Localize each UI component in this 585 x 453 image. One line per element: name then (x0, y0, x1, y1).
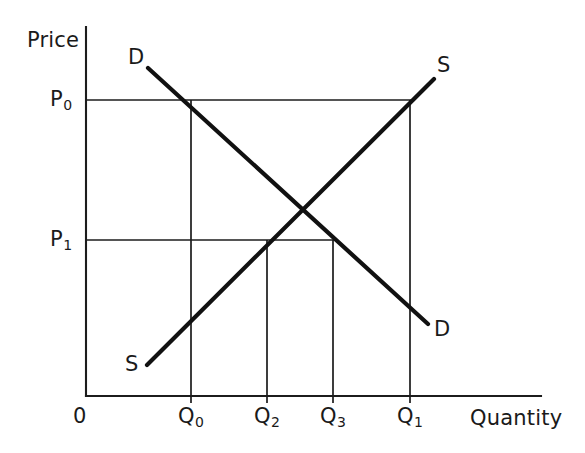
supply-curve-label-bottom: S (125, 354, 138, 375)
demand-curve-label-bottom: D (434, 319, 450, 340)
quantity-tick-q1-base: Q (397, 404, 414, 428)
price-tick-p1-base: P (50, 227, 63, 251)
price-tick-p1: P1 (50, 229, 72, 250)
price-tick-p0-base: P (50, 87, 63, 111)
price-tick-p1-subscript: 1 (63, 237, 72, 253)
quantity-tick-q1: Q1 (397, 406, 422, 427)
supply-curve (147, 79, 434, 365)
y-axis-label: Price (27, 30, 79, 51)
quantity-tick-q1-subscript: 1 (414, 414, 423, 430)
origin-label: 0 (73, 406, 86, 427)
demand-curve (148, 68, 428, 324)
price-tick-p0-subscript: 0 (63, 97, 72, 113)
quantity-tick-q3-subscript: 3 (337, 414, 346, 430)
quantity-tick-q0-base: Q (178, 404, 195, 428)
diagram-canvas (0, 0, 585, 453)
supply-demand-figure: Price Quantity 0 P0 P1 Q0 Q2 Q3 Q1 D D S… (0, 0, 585, 453)
quantity-tick-q2-base: Q (254, 404, 271, 428)
quantity-tick-q0-subscript: 0 (195, 414, 204, 430)
quantity-tick-q0: Q0 (178, 406, 203, 427)
demand-curve-label-top: D (128, 47, 144, 68)
quantity-tick-q2-subscript: 2 (271, 414, 280, 430)
quantity-tick-q2: Q2 (254, 406, 279, 427)
supply-curve-label-top: S (437, 55, 450, 76)
x-axis-label: Quantity (470, 408, 562, 429)
price-tick-p0: P0 (50, 89, 72, 110)
quantity-tick-q3: Q3 (320, 406, 345, 427)
quantity-tick-q3-base: Q (320, 404, 337, 428)
